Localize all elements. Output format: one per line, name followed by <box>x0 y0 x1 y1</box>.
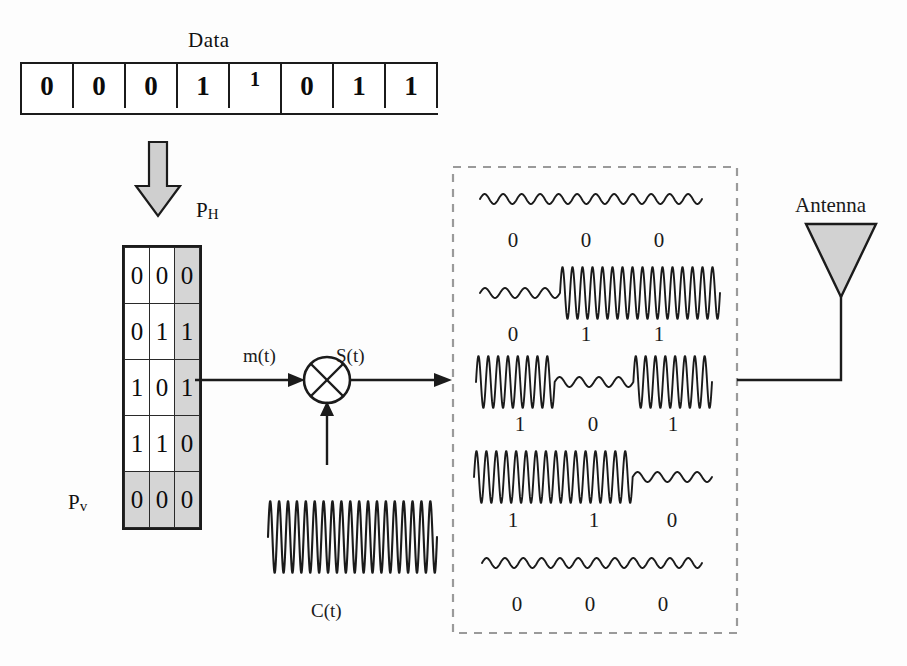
waveform-bit-label: 0 <box>648 228 670 253</box>
mt-arrow-icon <box>195 373 305 387</box>
waveform-bit-label: 1 <box>509 412 531 437</box>
signal-path-layer <box>0 0 907 666</box>
antenna-feed-line <box>737 296 841 380</box>
waveform-bit-label: 1 <box>575 322 597 347</box>
ct-label: C(t) <box>311 600 342 622</box>
waveform-bit-label: 0 <box>575 228 597 253</box>
ct-arrow-icon <box>320 401 334 465</box>
waveform-bit-label: 1 <box>502 508 524 533</box>
modulated-waveform-row <box>474 451 712 502</box>
antenna-triangle-icon <box>806 224 876 297</box>
waveform-bit-label: 1 <box>662 412 684 437</box>
modulated-waveform-row <box>482 558 702 568</box>
waveform-bit-label: 0 <box>579 592 601 617</box>
st-label: S(t) <box>336 345 365 367</box>
waveform-bit-label: 0 <box>502 228 524 253</box>
mt-label: m(t) <box>243 345 276 367</box>
waveform-bit-label: 0 <box>502 322 524 347</box>
waveform-bit-label: 1 <box>648 322 670 347</box>
modulated-waveform-row <box>480 194 702 204</box>
carrier-waveform <box>268 501 437 572</box>
waveform-bit-label: 1 <box>583 508 605 533</box>
st-arrow-icon <box>351 373 452 387</box>
waveform-bit-label: 0 <box>582 412 604 437</box>
modulated-waveform-row <box>480 267 720 318</box>
waveform-bit-label: 0 <box>652 592 674 617</box>
diagram-canvas: Data 0 0 0 1 1 0 1 1 PH Pv 0 0 0 0 <box>0 0 907 666</box>
modulated-waveform-row <box>476 356 712 407</box>
waveform-bit-label: 0 <box>506 592 528 617</box>
antenna-label: Antenna <box>795 193 866 218</box>
waveform-bit-label: 0 <box>661 508 683 533</box>
